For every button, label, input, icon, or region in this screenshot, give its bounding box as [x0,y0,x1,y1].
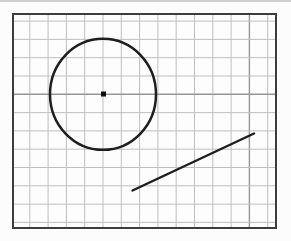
geometry-figure [0,0,291,241]
top-rule [0,0,291,2]
grid-box-fill [13,14,276,228]
page [0,0,291,241]
circle-center-dot [101,92,106,97]
